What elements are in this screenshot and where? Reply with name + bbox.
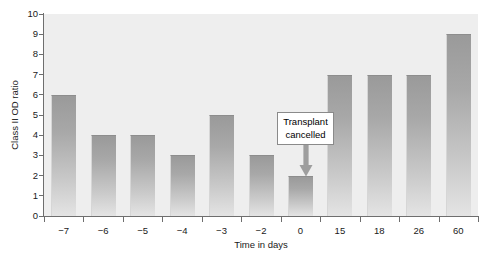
y-axis-tick	[39, 94, 44, 95]
y-axis-tick-label: 7	[33, 70, 38, 80]
annotation-line-1: Transplant	[278, 116, 333, 129]
y-axis-tick-label: 1	[33, 191, 38, 201]
y-axis-tick	[39, 195, 44, 196]
x-axis-tick	[439, 217, 440, 222]
y-axis-tick-label: 2	[33, 171, 38, 181]
y-axis-tick	[39, 34, 44, 35]
x-axis-tick	[399, 217, 400, 222]
x-axis-tick-label: 60	[453, 226, 464, 236]
x-axis-tick	[44, 217, 45, 222]
bar	[406, 75, 431, 216]
y-axis-tick-label: 9	[33, 29, 38, 39]
x-axis-tick-label: −7	[58, 226, 69, 236]
y-axis-tick	[39, 135, 44, 136]
annotation-line-2: cancelled	[278, 129, 333, 142]
x-axis-tick-label: −6	[98, 226, 109, 236]
y-axis-tick	[39, 175, 44, 176]
y-axis-tick-label: 3	[33, 150, 38, 160]
x-axis-tick-label: −2	[256, 226, 267, 236]
x-axis-tick-label: −5	[137, 226, 148, 236]
bar	[91, 135, 116, 216]
x-axis-tick	[202, 217, 203, 222]
bar	[446, 34, 471, 216]
x-axis-tick-label: 26	[414, 226, 425, 236]
x-axis-tick	[83, 217, 84, 222]
x-axis-tick	[162, 217, 163, 222]
x-axis-tick-label: 0	[298, 226, 303, 236]
y-axis-tick	[39, 14, 44, 15]
y-axis-tick	[39, 115, 44, 116]
x-axis-tick	[123, 217, 124, 222]
annotation-down-arrow-icon	[299, 145, 313, 177]
x-axis-tick	[320, 217, 321, 222]
y-axis-tick-label: 6	[33, 90, 38, 100]
bar	[209, 115, 234, 216]
bar	[170, 155, 195, 216]
x-axis-tick	[360, 217, 361, 222]
y-axis-tick-label: 5	[33, 110, 38, 120]
x-axis-tick	[241, 217, 242, 222]
bar	[130, 135, 155, 216]
x-axis-title: Time in days	[44, 240, 478, 250]
bar	[249, 155, 274, 216]
x-axis-tick-label: 15	[335, 226, 346, 236]
y-axis-tick	[39, 155, 44, 156]
x-axis-line	[43, 216, 479, 217]
y-axis-tick-label: 8	[33, 49, 38, 59]
x-axis-tick-label: −3	[216, 226, 227, 236]
x-axis-tick-label: 18	[374, 226, 385, 236]
x-axis-tick-label: −4	[177, 226, 188, 236]
annotation-transplant-cancelled: Transplant cancelled	[277, 112, 334, 145]
y-axis-tick	[39, 54, 44, 55]
y-axis-tick-label: 4	[33, 130, 38, 140]
x-axis-tick	[478, 217, 479, 222]
y-axis-title: Class II OD ratio	[8, 14, 22, 216]
bar	[51, 95, 76, 216]
y-axis-tick	[39, 74, 44, 75]
bar	[288, 176, 313, 216]
bar-chart-figure: 012345678910 −7−6−5−4−3−2015182660 Class…	[0, 0, 496, 259]
bar	[327, 75, 352, 216]
y-axis-tick-label: 10	[27, 9, 38, 19]
y-axis-tick-label: 0	[33, 211, 38, 221]
x-axis-tick	[281, 217, 282, 222]
bar	[367, 75, 392, 216]
